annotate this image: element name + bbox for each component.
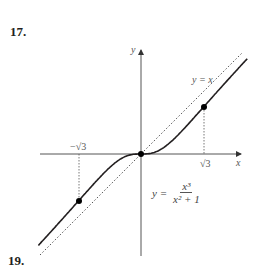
- problem-number-19: 19.: [8, 253, 24, 269]
- equation-denominator: x² + 1: [171, 193, 202, 205]
- y-axis-label: y: [131, 44, 135, 55]
- point-origin: [138, 151, 144, 157]
- function-graph: [0, 0, 264, 275]
- equation-numerator: x³: [180, 180, 192, 193]
- tick-pos-root3: √3: [200, 158, 211, 169]
- equation-label: y = x³ x² + 1: [152, 180, 202, 205]
- point-neg-root3: [76, 198, 82, 204]
- point-pos-root3: [201, 104, 207, 110]
- x-axis-label: x: [236, 157, 240, 168]
- tick-neg-root3: −√3: [70, 141, 86, 152]
- equation-lhs: y =: [152, 187, 167, 199]
- asymptote-label: y = x: [192, 74, 213, 85]
